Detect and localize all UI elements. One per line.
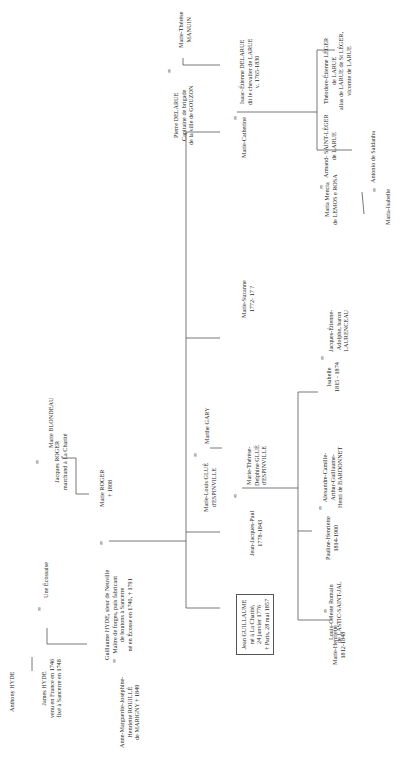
person-alexandre-bardonnet: Alexandre-Camille- Arthur-Guillaume- Hen… xyxy=(321,447,344,508)
person-anne-marguerite: Anne-Marguerite-Joséphine- Henriette ROU… xyxy=(118,677,141,748)
marriage-symbol: ∞ xyxy=(371,188,377,192)
person-marie-louis-glue: Marie-Louis GLUÉ d'ESPINVILLE xyxy=(202,463,217,512)
person-theodore-etienne: Théodore-Étienne LÉGER de LARUE alias de… xyxy=(322,32,352,110)
marriage-symbol: ∞ xyxy=(111,659,117,663)
marriage-symbol: ∞ xyxy=(98,541,104,545)
marriage-symbol: ∞ xyxy=(36,607,42,611)
person-marie-therese-delphine: Marie-Thérèse- Delphine GLUÉ d'ESPINVILL… xyxy=(245,445,268,486)
person-jacques-roger: Jacques ROGER marchand à La Charité xyxy=(53,433,68,490)
person-une-ecossaise: Une Écossaise xyxy=(42,562,50,598)
person-james-hyde: James HYDE venu en France en 1746 fixé à… xyxy=(40,659,63,718)
person-anthony-hyde: Anthony HYDE xyxy=(8,672,16,712)
person-marthe-gary: Marthe GARY xyxy=(203,407,211,444)
person-isaac-etienne: Isaac-Étienne DELARUE dit le chevalier d… xyxy=(238,39,261,105)
person-maria-isabelle: Maria-Isabelle xyxy=(384,189,392,225)
person-marie-blondeau: Marie BLONDEAU xyxy=(47,398,55,448)
person-maria-mencia: Maria Mencia de LEMOS e ROSA xyxy=(323,174,338,225)
person-jacques-etienne-laurenceau: Jacques-Étienne- Adolphe, baron LAURENCE… xyxy=(327,310,350,352)
person-guillaume-hyde: Guillaume HYDE, sieur de Neuville Maître… xyxy=(103,570,133,660)
marriage-symbol: ∞ xyxy=(166,69,172,73)
person-louis-celeste: Louis-Céleste Romain de LASTIC-SAINT-JAL xyxy=(327,582,342,643)
person-marie-catherine: Marie-Catherine xyxy=(240,117,248,158)
person-marie-suzanne: Marie-Suzanne 1772- 17 ? xyxy=(240,280,255,318)
person-antonio-saldanha: Antonio de Saldanha xyxy=(369,131,377,183)
person-pauline-henriette: Pauline-Henriette 1814-1900 xyxy=(324,516,339,560)
person-jean-guillaume: Jean GUILLAUME né à La Charité, 24 janvi… xyxy=(236,594,274,655)
marriage-symbol: ∞ xyxy=(318,185,324,189)
marriage-symbol: ∞ xyxy=(34,460,40,464)
marriage-symbol: ∞ xyxy=(232,494,238,498)
marriage-symbol: ∞ xyxy=(232,116,238,120)
marriage-symbol: ∞ xyxy=(192,453,198,457)
person-marie-therese-manuin: Marie-Thérèse MANUIN xyxy=(177,12,192,48)
person-isabelle: Isabelle 1815 - 1874 xyxy=(325,362,340,392)
line-to-guillaume xyxy=(47,641,87,644)
person-armand-saint-leger: Armand- SAINT-LÉGER de LARUE xyxy=(322,114,337,178)
line-armand-marriage xyxy=(362,192,364,214)
person-marie-roger: Marie ROGER † 1808 xyxy=(98,470,113,507)
person-jean-jacques-paul: Jean-Jacques-Paul 1778-1843 xyxy=(248,511,263,556)
marriage-symbol: ∞ xyxy=(319,356,325,360)
person-pierre-delarue: Pierre DELARUE Capitaine de brigade de l… xyxy=(172,86,195,145)
